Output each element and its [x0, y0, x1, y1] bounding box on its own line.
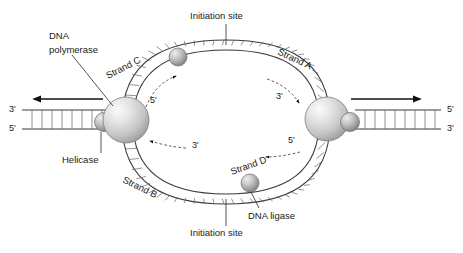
dna-polymerase-left-sphere — [103, 97, 149, 143]
label-inner-bottom-right-prime: 5' — [288, 135, 295, 145]
label-right-bottom-prime: 3' — [447, 123, 454, 133]
arrow-bottom-left-synthesis — [150, 141, 186, 148]
right-duplex-rungs — [365, 110, 435, 129]
arrow-top-right-synthesis — [267, 79, 299, 103]
ligase-bottom-sphere — [241, 174, 259, 192]
label-inner-bottom-left-prime: 3' — [192, 140, 199, 150]
arrow-bottom-right-synthesis — [266, 152, 300, 157]
label-initiation-site-top: Initiation site — [190, 10, 243, 21]
right-duplex — [355, 110, 441, 129]
label-inner-top-left-prime: 5' — [150, 95, 157, 105]
label-strand-c: Strand C — [104, 54, 143, 81]
left-duplex-rungs — [32, 110, 102, 129]
label-dna-polymerase-line1: DNA — [49, 30, 70, 41]
synthesis-direction-arrows — [146, 76, 300, 157]
label-dna-polymerase-line2: polymerase — [49, 44, 98, 55]
bubble-bottom-inner-arc — [133, 122, 319, 194]
label-left-bottom-prime: 5' — [9, 123, 16, 133]
label-initiation-site-bottom: Initiation site — [190, 227, 243, 238]
label-strand-d: Strand D — [229, 154, 268, 177]
label-dna-ligase: DNA ligase — [248, 210, 295, 221]
ligase-top-sphere — [169, 48, 187, 66]
label-left-top-prime: 3' — [9, 104, 16, 114]
label-right-top-prime: 5' — [447, 104, 454, 114]
helicase-right-sphere — [341, 113, 360, 132]
diagram-canvas: Initiation site Initiation site DNA poly… — [0, 0, 463, 253]
leader-dna-ligase — [251, 192, 259, 208]
dna-replication-diagram: Initiation site Initiation site DNA poly… — [0, 0, 463, 253]
bubble-top-outer-arc — [122, 40, 330, 122]
label-inner-top-right-prime: 3' — [276, 91, 283, 101]
label-helicase: Helicase — [62, 154, 98, 165]
